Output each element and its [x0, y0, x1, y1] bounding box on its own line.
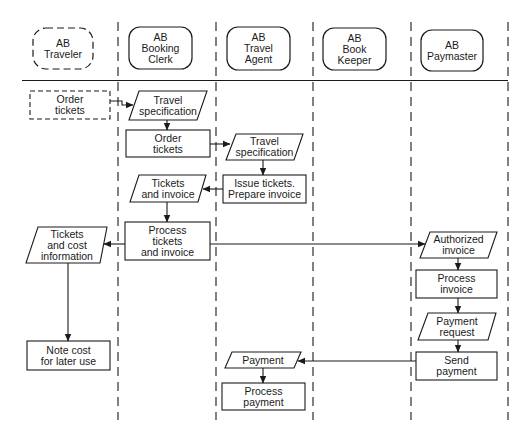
edge-n1-n2	[110, 101, 133, 105]
node-process-payment	[222, 383, 305, 410]
node-tickets-and-invoice	[130, 175, 206, 202]
lane-header-book-keeper	[323, 28, 386, 70]
node-note-cost	[27, 341, 110, 370]
node-order-tickets-traveler	[30, 91, 110, 119]
node-payment	[225, 352, 301, 368]
node-tickets-cost-information	[26, 227, 107, 263]
node-travel-specification-agent	[226, 134, 303, 160]
lane-header-travel-agent	[227, 27, 290, 70]
swimlane-diagram: AB Traveler AB Booking Clerk AB Travel A…	[0, 0, 526, 437]
node-order-tickets-clerk	[126, 130, 210, 157]
lane-header-traveler	[33, 28, 93, 69]
diagram-canvas	[0, 0, 526, 437]
node-issue-tickets	[223, 175, 306, 203]
node-process-tickets-invoice	[125, 222, 210, 260]
node-payment-request	[418, 313, 496, 340]
node-send-payment	[416, 352, 497, 380]
node-process-invoice	[416, 270, 497, 298]
lane-header-paymaster	[421, 30, 483, 71]
node-travel-specification-clerk	[129, 91, 207, 120]
node-authorized-invoice	[420, 232, 497, 258]
lane-header-booking-clerk	[129, 27, 192, 69]
